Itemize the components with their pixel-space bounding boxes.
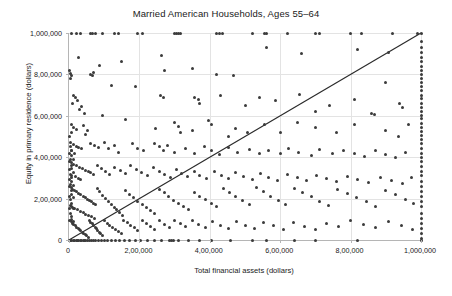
scatter-point bbox=[420, 160, 423, 163]
scatter-point bbox=[420, 89, 423, 92]
scatter-point bbox=[142, 149, 145, 152]
x-axis-tick bbox=[210, 240, 211, 243]
scatter-point bbox=[71, 102, 74, 105]
scatter-point bbox=[168, 226, 171, 229]
scatter-point bbox=[420, 51, 423, 54]
scatter-point bbox=[191, 67, 194, 70]
scatter-point bbox=[401, 106, 404, 109]
scatter-point bbox=[146, 239, 149, 242]
scatter-point bbox=[420, 165, 423, 168]
scatter-point bbox=[83, 112, 86, 115]
scatter-point bbox=[297, 151, 300, 154]
scatter-point bbox=[277, 199, 280, 202]
scatter-point bbox=[120, 232, 123, 235]
scatter-point bbox=[70, 167, 73, 170]
scatter-point bbox=[160, 239, 163, 242]
scatter-point bbox=[420, 110, 423, 113]
scatter-point bbox=[310, 195, 313, 198]
scatter-point bbox=[420, 126, 423, 129]
scatter-point bbox=[251, 239, 254, 242]
scatter-point bbox=[180, 172, 183, 175]
scatter-point bbox=[187, 239, 190, 242]
scatter-point bbox=[229, 239, 232, 242]
scatter-point bbox=[136, 200, 139, 203]
scatter-point bbox=[235, 220, 238, 223]
scatter-point bbox=[251, 178, 254, 181]
scatter-point bbox=[279, 131, 282, 134]
scatter-point bbox=[94, 32, 97, 35]
scatter-point bbox=[101, 32, 104, 35]
scatter-point bbox=[119, 169, 122, 172]
scatter-point bbox=[100, 167, 103, 170]
scatter-point bbox=[163, 223, 166, 226]
scatter-point bbox=[145, 222, 148, 225]
scatter-point bbox=[420, 195, 423, 198]
scatter-point bbox=[149, 225, 152, 228]
scatter-point bbox=[234, 195, 237, 198]
scatter-point bbox=[113, 166, 116, 169]
scatter-point bbox=[222, 187, 225, 190]
scatter-point bbox=[420, 222, 423, 225]
scatter-point bbox=[197, 98, 200, 101]
scatter-point bbox=[193, 96, 196, 99]
scatter-point bbox=[248, 203, 251, 206]
scatter-point bbox=[360, 32, 363, 35]
scatter-point bbox=[169, 176, 172, 179]
scatter-point bbox=[184, 225, 187, 228]
scatter-point bbox=[420, 122, 423, 125]
scatter-point bbox=[248, 148, 251, 151]
scatter-point bbox=[227, 227, 230, 230]
scatter-point bbox=[411, 228, 414, 231]
scatter-point bbox=[107, 147, 110, 150]
x-axis-tick bbox=[69, 240, 70, 243]
scatter-point bbox=[101, 114, 104, 117]
x-axis-tick-label: 0 bbox=[66, 246, 70, 255]
scatter-point bbox=[228, 191, 231, 194]
scatter-point bbox=[420, 134, 423, 137]
x-axis-tick-label: 6,00,000 bbox=[265, 246, 293, 255]
scatter-point bbox=[267, 176, 270, 179]
scatter-point bbox=[362, 223, 365, 226]
scatter-point bbox=[420, 69, 423, 72]
scatter-point bbox=[97, 146, 100, 149]
scatter-point bbox=[374, 226, 377, 229]
scatter-point bbox=[210, 149, 213, 152]
scatter-point bbox=[227, 146, 230, 149]
scatter-point bbox=[69, 145, 72, 148]
scatter-point bbox=[198, 102, 201, 105]
scatter-point bbox=[110, 84, 113, 87]
scatter-point bbox=[92, 173, 95, 176]
scatter-point bbox=[221, 32, 224, 35]
scatter-point bbox=[207, 119, 210, 122]
scatter-point bbox=[258, 96, 261, 99]
scatter-point bbox=[120, 60, 123, 63]
scatter-point bbox=[80, 147, 83, 150]
scatter-point bbox=[158, 188, 161, 191]
scatter-point bbox=[167, 195, 170, 198]
scatter-point bbox=[93, 217, 96, 220]
scatter-point bbox=[384, 81, 387, 84]
scatter-point bbox=[374, 149, 377, 152]
scatter-point bbox=[420, 142, 423, 145]
scatter-point bbox=[310, 154, 313, 157]
scatter-point bbox=[70, 164, 73, 167]
scatter-point bbox=[272, 224, 275, 227]
scatter-point bbox=[420, 94, 423, 97]
scatter-point bbox=[163, 69, 166, 72]
scatter-point bbox=[121, 214, 124, 217]
scatter-point bbox=[129, 224, 132, 227]
scatter-point bbox=[292, 221, 295, 224]
scatter-point bbox=[267, 149, 270, 152]
scatter-point bbox=[293, 187, 296, 190]
scatter-point bbox=[265, 46, 268, 49]
scatter-point bbox=[141, 219, 144, 222]
scatter-point bbox=[420, 147, 423, 150]
x-axis-title: Total financial assets (dollars) bbox=[68, 266, 420, 275]
scatter-point bbox=[387, 51, 390, 54]
scatter-point bbox=[72, 171, 75, 174]
x-axis-tick bbox=[421, 240, 422, 243]
scatter-point bbox=[149, 209, 152, 212]
scatter-point bbox=[198, 195, 201, 198]
scatter-point bbox=[220, 174, 223, 177]
scatter-point bbox=[124, 189, 127, 192]
